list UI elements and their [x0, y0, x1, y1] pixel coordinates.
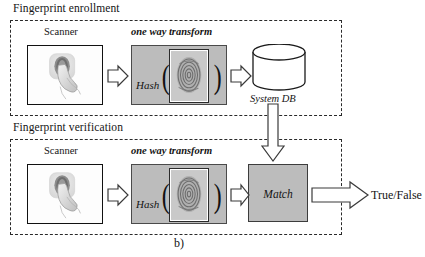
- arrow-hash-to-match: [231, 185, 249, 205]
- arrow-layer: [0, 0, 425, 257]
- arrow-scanner-to-hash-enrollment: [108, 66, 128, 86]
- figure-diagram: Fingerprint enrollment Scanner one way t…: [0, 0, 425, 257]
- arrow-hash-to-db: [231, 66, 251, 86]
- arrow-db-to-match: [262, 104, 284, 161]
- arrow-scanner-to-hash-verification: [108, 185, 128, 205]
- arrow-match-to-output: [312, 182, 368, 208]
